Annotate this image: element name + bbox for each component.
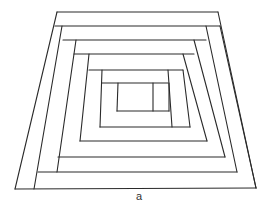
- diagram-line: [194, 40, 225, 157]
- diagram-line: [15, 188, 256, 189]
- diagram-line: [15, 12, 57, 189]
- diagram-line: [220, 26, 256, 188]
- figure-caption: a: [134, 190, 144, 202]
- diagram-line: [206, 26, 237, 172]
- diagram-line: [183, 70, 190, 127]
- diagram-line: [80, 54, 89, 141]
- diagram-line: [57, 40, 76, 172]
- log-cabin-diagram: [0, 0, 275, 214]
- diagram-line: [100, 70, 102, 127]
- diagram-line: [117, 83, 118, 111]
